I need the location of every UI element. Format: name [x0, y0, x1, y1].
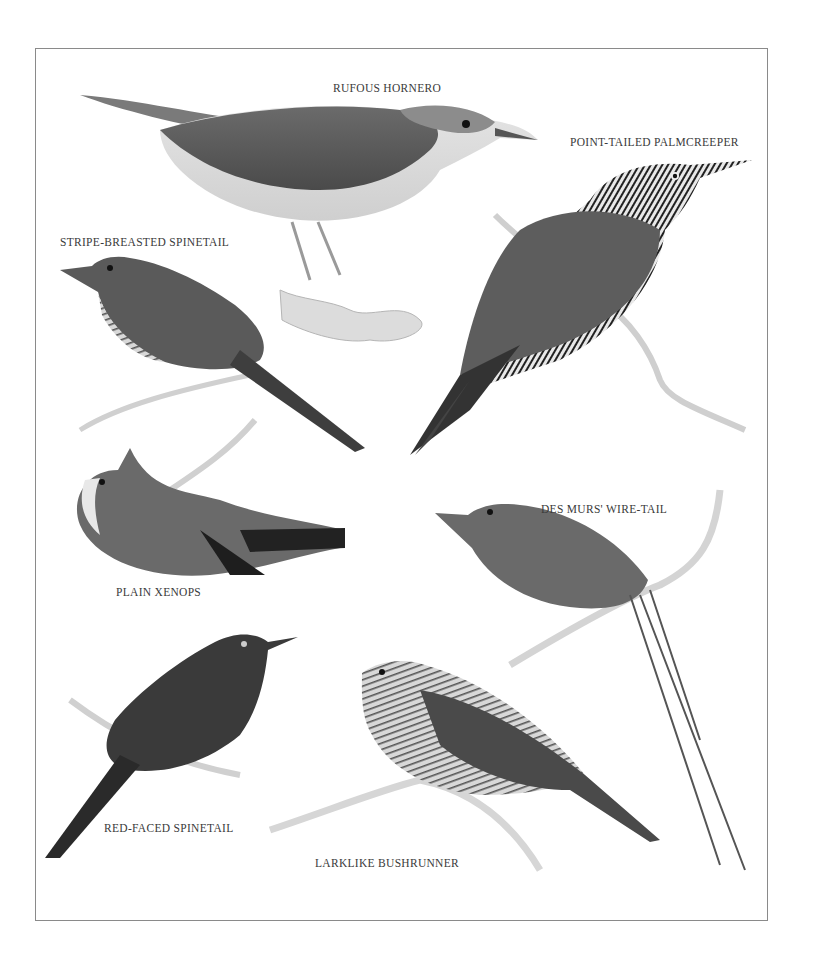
label-red-faced-spinetail: RED-FACED SPINETAIL: [104, 822, 233, 834]
label-stripe-breasted-spinetail: STRIPE-BREASTED SPINETAIL: [60, 236, 229, 248]
plain-xenops-illustration: [77, 420, 345, 576]
larklike-bushrunner-illustration: [270, 661, 660, 870]
label-point-tailed-palmcreeper: POINT-TAILED PALMCREEPER: [570, 136, 739, 148]
label-plain-xenops: PLAIN XENOPS: [116, 586, 201, 598]
des-murs-wire-tail-illustration: [435, 490, 745, 870]
label-larklike-bushrunner: LARKLIKE BUSHRUNNER: [315, 857, 459, 869]
label-des-murs-wire-tail: DES MURS' WIRE-TAIL: [541, 503, 667, 515]
label-rufous-hornero: RUFOUS HORNERO: [333, 82, 441, 94]
stripe-breasted-spinetail-illustration: [60, 257, 365, 452]
point-tailed-palmcreeper-illustration: [410, 160, 752, 455]
